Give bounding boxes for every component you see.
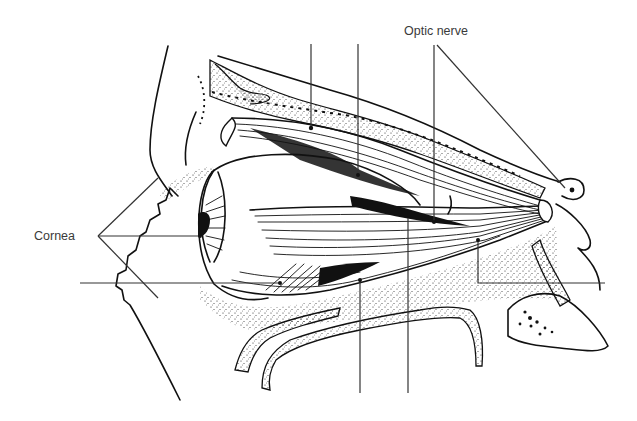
upper-orbit-bone xyxy=(198,56,560,198)
label-cornea: Cornea xyxy=(34,229,75,243)
cornea-leader-upper xyxy=(98,178,158,236)
cornea-leader-lower xyxy=(98,236,158,298)
leader-lines xyxy=(80,44,605,393)
face-profile xyxy=(116,46,196,400)
eye-anatomy-diagram: Optic nerve Cornea xyxy=(0,0,637,421)
anatomy-illustration xyxy=(0,0,637,421)
muscle-cone xyxy=(250,196,552,255)
label-optic-nerve: Optic nerve xyxy=(404,24,468,38)
